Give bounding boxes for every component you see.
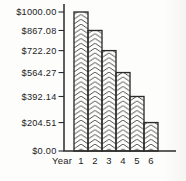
x-tick-label-5: 5 bbox=[134, 155, 139, 166]
y-tick-label-5: $204.51 bbox=[22, 118, 57, 128]
bar-year-4 bbox=[116, 73, 130, 151]
x-tick-label-6: 6 bbox=[148, 155, 153, 166]
bar-year-5 bbox=[130, 96, 144, 151]
x-tick-label-4: 4 bbox=[120, 155, 125, 166]
bar-year-6 bbox=[144, 123, 158, 151]
bar-year-2 bbox=[88, 30, 102, 151]
y-tick-label-1: $867.08 bbox=[22, 26, 57, 36]
y-tick-label-0: $1000.00 bbox=[16, 7, 56, 17]
x-tick-label-2: 2 bbox=[92, 155, 97, 166]
bar-chart-canvas: $1000.00$867.08$722.20$564.27$392.14$204… bbox=[0, 0, 186, 181]
x-tick-label-1: 1 bbox=[78, 155, 83, 166]
bar-year-1 bbox=[74, 12, 88, 151]
x-tick-label-3: 3 bbox=[106, 155, 111, 166]
y-tick-label-4: $392.14 bbox=[22, 92, 57, 102]
y-tick-label-3: $564.27 bbox=[22, 68, 57, 78]
bars bbox=[74, 12, 158, 151]
y-tick-label-2: $722.20 bbox=[22, 46, 57, 56]
bar-year-3 bbox=[102, 51, 116, 151]
x-axis-title: Year bbox=[52, 155, 72, 166]
bar-chart-figure: $1000.00$867.08$722.20$564.27$392.14$204… bbox=[0, 0, 186, 181]
